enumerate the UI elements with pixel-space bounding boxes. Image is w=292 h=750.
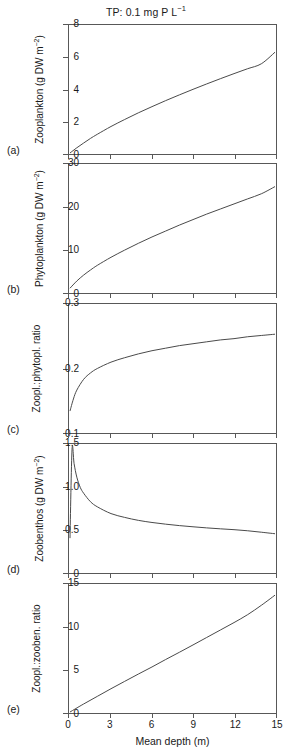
panel-a: 02468Zooplankton (g DW m−2)(a) — [0, 24, 292, 155]
x-tick-mark — [110, 294, 111, 298]
panel-b: 0102030Phytoplankton (g DW m−2)(b) — [0, 163, 292, 294]
y-axis-label-tail: ) — [34, 455, 45, 458]
panel-tag: (e) — [7, 704, 20, 715]
x-tick-label: 0 — [56, 720, 80, 730]
y-axis-label: Zoopl.:phytopl. ratio — [32, 303, 42, 434]
figure-panel-stack: TP: 0.1 mg P L−1 02468Zooplankton (g DW … — [0, 0, 292, 750]
data-curve — [70, 595, 275, 712]
x-tick-mark — [235, 714, 236, 718]
x-tick-mark — [110, 714, 111, 718]
y-tick-label: 1.5 — [19, 438, 79, 448]
panel-tag: (c) — [7, 424, 19, 435]
y-tick-label: 20 — [19, 202, 79, 212]
x-tick-mark — [193, 714, 194, 718]
plot-area — [68, 583, 277, 714]
x-tick-mark — [68, 714, 69, 718]
curve-canvas — [69, 584, 276, 713]
curve-canvas — [69, 25, 276, 154]
x-tick-mark — [152, 434, 153, 438]
x-tick-mark — [152, 294, 153, 298]
y-axis-label-text: Zoopl.:zooben. ratio — [31, 604, 42, 692]
y-tick-label: 1.0 — [19, 482, 79, 492]
y-axis-label-exponent: −2 — [33, 459, 40, 467]
y-axis-label-text: Zooplankton (g DW m — [34, 47, 45, 144]
y-tick-label: 10 — [19, 245, 79, 255]
x-tick-mark — [276, 714, 277, 718]
y-tick-label: 5 — [19, 665, 79, 675]
x-tick-mark — [276, 574, 277, 578]
x-axis-title: Mean depth (m) — [68, 735, 277, 747]
figure-title-text: TP: 0.1 mg P L — [106, 6, 177, 18]
x-tick-mark — [276, 155, 277, 159]
panel-e: 05101503691215Zoopl.:zooben. ratio(e) — [0, 583, 292, 714]
y-tick-label: 0.3 — [19, 298, 79, 308]
y-axis-label: Zooplankton (g DW m−2) — [32, 24, 45, 155]
y-tick-label: 0.5 — [19, 525, 79, 535]
y-tick-label: 0.2 — [19, 364, 79, 374]
x-tick-label: 6 — [140, 720, 164, 730]
curve-canvas — [69, 304, 276, 433]
x-tick-mark — [193, 574, 194, 578]
y-axis-label: Zoobenthos (g DW m−2) — [32, 443, 45, 574]
x-tick-mark — [152, 714, 153, 718]
x-tick-mark — [110, 574, 111, 578]
y-axis-label-exponent: −2 — [33, 173, 40, 181]
x-tick-mark — [152, 155, 153, 159]
x-tick-mark — [235, 294, 236, 298]
panel-tag: (d) — [7, 564, 20, 575]
x-tick-label: 9 — [181, 720, 205, 730]
y-tick-label: 6 — [19, 52, 79, 62]
x-tick-mark — [235, 155, 236, 159]
y-tick-label: 0 — [19, 709, 79, 719]
x-tick-mark — [276, 294, 277, 298]
x-tick-mark — [193, 294, 194, 298]
plot-area — [68, 443, 277, 574]
data-curve — [70, 52, 275, 153]
x-tick-label: 12 — [223, 720, 247, 730]
y-axis-label-text: Zoobenthos (g DW m — [34, 467, 45, 562]
panel-tag: (a) — [7, 145, 20, 156]
x-tick-mark — [152, 574, 153, 578]
y-axis-label: Phytoplankton (g DW m−2) — [32, 163, 45, 294]
y-tick-label: 15 — [19, 578, 79, 588]
y-axis-label-exponent: −2 — [33, 39, 40, 47]
x-tick-mark — [276, 434, 277, 438]
x-tick-mark — [110, 434, 111, 438]
x-tick-mark — [110, 155, 111, 159]
panel-tag: (b) — [7, 284, 20, 295]
y-tick-label: 10 — [19, 622, 79, 632]
plot-area — [68, 303, 277, 434]
y-axis-label-tail: ) — [34, 170, 45, 173]
y-tick-label: 30 — [19, 158, 79, 168]
panel-c: 0.10.20.3Zoopl.:phytopl. ratio(c) — [0, 303, 292, 434]
panel-d: 00.51.01.5Zoobenthos (g DW m−2)(d) — [0, 443, 292, 574]
x-tick-mark — [193, 434, 194, 438]
x-tick-mark — [235, 574, 236, 578]
curve-canvas — [69, 444, 276, 573]
y-tick-label: 8 — [19, 19, 79, 29]
data-curve — [70, 445, 275, 538]
figure-title: TP: 0.1 mg P L−1 — [0, 4, 292, 18]
data-curve — [70, 187, 275, 289]
x-tick-label: 3 — [98, 720, 122, 730]
y-tick-label: 4 — [19, 85, 79, 95]
y-axis-label-tail: ) — [34, 35, 45, 38]
y-axis-label-text: Phytoplankton (g DW m — [34, 181, 45, 287]
x-tick-label: 15 — [265, 720, 289, 730]
y-axis-label-text: Zoopl.:phytopl. ratio — [31, 325, 42, 413]
plot-area — [68, 24, 277, 155]
x-tick-mark — [193, 155, 194, 159]
curve-canvas — [69, 164, 276, 293]
y-tick-label: 2 — [19, 117, 79, 127]
figure-title-exponent: −1 — [177, 4, 186, 13]
plot-area — [68, 163, 277, 294]
y-axis-label: Zoopl.:zooben. ratio — [32, 583, 42, 714]
x-tick-mark — [235, 434, 236, 438]
data-curve — [70, 334, 275, 411]
